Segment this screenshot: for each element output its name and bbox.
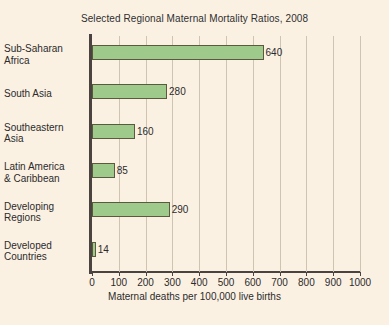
tick-mark <box>199 272 200 276</box>
category-label: DevelopingRegions <box>4 201 92 224</box>
tick-mark <box>333 272 334 276</box>
tick-mark <box>146 272 147 276</box>
bar-value-label: 85 <box>115 163 128 178</box>
category-label-line: Sub-Saharan <box>4 43 92 55</box>
category-label-line: Africa <box>4 55 92 67</box>
tick-mark <box>119 272 120 276</box>
bar-row: 160 <box>92 115 360 151</box>
plot-area: 6402801608529014 <box>92 36 360 272</box>
x-axis-title: Maternal deaths per 100,000 live births <box>0 291 389 302</box>
bar-value-label: 14 <box>96 242 109 257</box>
bar-row: 640 <box>92 36 360 72</box>
category-label-line: Regions <box>4 212 92 224</box>
category-label-line: Latin America <box>4 161 92 173</box>
category-label-line: Southeastern <box>4 122 92 134</box>
tick-mark <box>226 272 227 276</box>
tick-mark <box>360 272 361 276</box>
bar-value-label: 160 <box>135 124 154 139</box>
category-label: Sub-SaharanAfrica <box>4 43 92 66</box>
bar-row: 14 <box>92 233 360 269</box>
category-label-line: Developed <box>4 240 92 252</box>
category-label: South Asia <box>4 88 92 100</box>
category-label-line: Countries <box>4 251 92 263</box>
bar <box>92 124 135 139</box>
bar-value-label: 280 <box>167 84 186 99</box>
tick-mark <box>172 272 173 276</box>
category-label-line: Developing <box>4 201 92 213</box>
bar-row: 85 <box>92 154 360 190</box>
category-label-line: & Caribbean <box>4 173 92 185</box>
tick-mark <box>92 272 93 276</box>
maternal-mortality-bar-chart: Selected Regional Maternal Mortality Rat… <box>0 0 389 325</box>
tick-mark <box>306 272 307 276</box>
category-label: SoutheasternAsia <box>4 122 92 145</box>
bar <box>92 84 167 99</box>
tick-mark <box>280 272 281 276</box>
category-label-line: South Asia <box>4 88 92 100</box>
bar <box>92 45 264 60</box>
category-label: Latin America& Caribbean <box>4 161 92 184</box>
chart-title: Selected Regional Maternal Mortality Rat… <box>0 13 389 24</box>
bar-value-label: 640 <box>264 45 283 60</box>
tick-mark <box>253 272 254 276</box>
bar-row: 290 <box>92 193 360 229</box>
bar-value-label: 290 <box>170 202 189 217</box>
category-label-line: Asia <box>4 133 92 145</box>
x-tick-label: 1000 <box>340 277 380 288</box>
bar-row: 280 <box>92 75 360 111</box>
bar <box>92 202 170 217</box>
gridline <box>360 36 361 272</box>
category-label: DevelopedCountries <box>4 240 92 263</box>
bar <box>92 163 115 178</box>
